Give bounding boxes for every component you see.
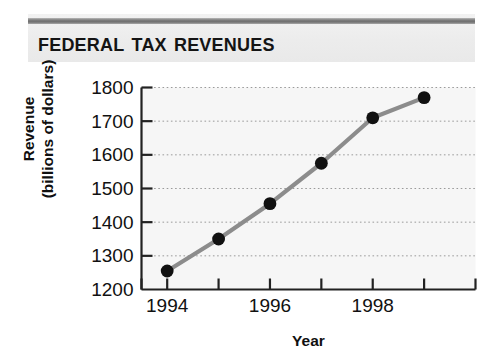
plot-background bbox=[142, 88, 476, 290]
y-tick-label: 1200 bbox=[91, 279, 133, 300]
y-tick-label: 1400 bbox=[91, 212, 133, 233]
data-point-marker[interactable] bbox=[212, 233, 225, 246]
line-chart: 1200130014001500160017001800199419961998 bbox=[0, 0, 499, 362]
data-point-marker[interactable] bbox=[315, 157, 328, 170]
y-tick-label: 1600 bbox=[91, 144, 133, 165]
x-tick-label: 1996 bbox=[249, 295, 291, 316]
data-point-marker[interactable] bbox=[366, 111, 379, 124]
y-tick-label: 1500 bbox=[91, 178, 133, 199]
data-point-marker[interactable] bbox=[264, 197, 277, 210]
y-tick-label: 1300 bbox=[91, 245, 133, 266]
chart-plot-area: 1200130014001500160017001800199419961998 bbox=[0, 0, 499, 362]
x-tick-label: 1994 bbox=[146, 295, 189, 316]
data-point-marker[interactable] bbox=[161, 265, 174, 278]
x-tick-label: 1998 bbox=[352, 295, 394, 316]
data-point-marker[interactable] bbox=[418, 91, 431, 104]
y-tick-label: 1800 bbox=[91, 77, 133, 98]
y-tick-label: 1700 bbox=[91, 111, 133, 132]
